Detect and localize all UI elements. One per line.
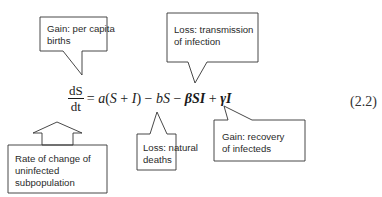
derivative-fraction: dS dt [68,84,84,113]
close-paren-minus: ) − [136,91,156,106]
callout-rate-of-change: Rate of change of uninfected subpopulati… [15,153,91,189]
callout-line: Gain: recovery [222,131,284,143]
callout-line: Rate of change of [15,153,91,165]
callout-transmission: Loss: transmission of infection [174,24,253,48]
equals-sign: = [87,91,98,106]
minus-sign: − [170,91,185,106]
callout-line: Gain: per capita [47,23,115,35]
callout-line: deaths [143,154,198,166]
callout-line: uninfected [15,165,91,177]
callout-per-capita-births: Gain: per capita births [47,23,115,47]
equation-rhs: = a(S + I) − bS − βSI + γI [87,91,232,107]
callout-line: of infection [174,36,253,48]
callout-line: Loss: transmission [174,24,253,36]
callout-line: subpopulation [15,177,91,189]
term-bS: bS [156,91,170,106]
plus-sign: + [205,91,220,106]
callout-line: of infecteds [222,143,284,155]
term-beta-SI: βSI [185,91,205,106]
derivative-numerator: dS [68,84,84,99]
derivative-denominator: dt [71,99,81,113]
callout-line: Loss: natural [143,142,198,154]
equation-number: (2.2) [350,94,377,110]
callout-recovery: Gain: recovery of infecteds [222,131,284,155]
callout-line: births [47,35,115,47]
term-gamma-I: γI [220,91,231,106]
differential-equation: dS dt = a(S + I) − bS − βSI + γI [68,84,231,113]
term-S: S [110,91,117,106]
plus-sign: + [117,91,132,106]
callout-natural-deaths: Loss: natural deaths [143,142,198,166]
